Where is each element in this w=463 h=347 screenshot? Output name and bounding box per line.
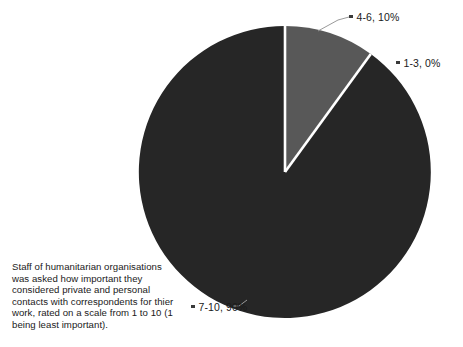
pie-label-1-3-text: 1-3, 0% [404,57,441,70]
pie-label-4-6-text: 4-6, 10% [357,11,400,24]
chart-caption: Staff of humanitarian organisations was … [12,261,175,331]
caption-line: contacts with correspondents for thier [12,296,175,308]
caption-line: work, rated on a scale from 1 to 10 (1 [12,307,175,319]
caption-line: Staff of humanitarian organisations [12,261,175,273]
legend-marker-icon [396,61,400,65]
pie-label-7-10[interactable]: 7-10, 90% [191,300,247,314]
caption-line: considered private and personal [12,284,175,296]
pie-label-7-10-text: 7-10, 90% [199,301,248,314]
leader-line-4-6 [318,17,349,31]
chart-canvas: 4-6, 10% 1-3, 0% 7-10, 90% Staff of huma… [0,0,463,347]
caption-line: being least important). [12,319,175,331]
pie-label-1-3[interactable]: 1-3, 0% [396,56,440,70]
legend-marker-icon [191,305,195,309]
pie-label-4-6[interactable]: 4-6, 10% [349,10,399,24]
caption-line: was asked how important they [12,273,175,285]
legend-marker-icon [349,15,353,19]
